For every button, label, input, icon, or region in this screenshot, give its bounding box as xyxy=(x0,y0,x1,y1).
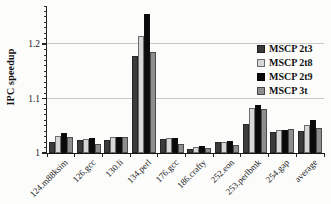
y-axis-minor-tick xyxy=(44,22,47,23)
legend-swatch xyxy=(257,59,265,67)
legend-swatch xyxy=(257,73,265,81)
y-axis-minor-tick xyxy=(44,104,47,105)
bar-average-mscp-3t xyxy=(316,128,322,153)
y-axis-minor-tick xyxy=(44,11,47,12)
y-tick-label: 1.2 xyxy=(22,39,40,49)
y-axis-minor-tick xyxy=(44,147,47,148)
y-axis-minor-tick xyxy=(44,82,47,83)
x-tick-label-130.li: 130.li xyxy=(104,158,125,179)
x-axis-tick xyxy=(213,153,214,157)
legend-item-mscp-3t: MSCP 3t xyxy=(257,85,313,96)
y-axis-minor-tick xyxy=(44,87,47,88)
y-axis-minor-tick xyxy=(44,16,47,17)
y-axis-minor-tick xyxy=(44,65,47,66)
bar-130.li-mscp-3t xyxy=(122,137,128,153)
legend-item-mscp-2t3: MSCP 2t3 xyxy=(257,43,313,54)
x-axis-tick xyxy=(296,153,297,157)
x-axis-tick xyxy=(268,153,269,157)
y-axis-minor-tick xyxy=(44,131,47,132)
y-axis-title: IPC speedup xyxy=(5,49,16,106)
bar-176.gcc-mscp-3t xyxy=(178,144,184,153)
x-axis-tick xyxy=(47,153,48,157)
x-tick-label-126.gcc: 126.gcc xyxy=(71,158,97,184)
legend-item-mscp-2t8: MSCP 2t8 xyxy=(257,57,313,68)
legend-item-mscp-2t9: MSCP 2t9 xyxy=(257,71,313,82)
bar-252.eon-mscp-3t xyxy=(233,145,239,153)
legend-label: MSCP 2t3 xyxy=(269,43,313,54)
bar-186.crafty-mscp-3t xyxy=(205,148,211,153)
y-axis-minor-tick xyxy=(44,114,47,115)
x-tick-label-average: average xyxy=(293,158,319,184)
y-axis-minor-tick xyxy=(44,6,47,7)
y-tick-label: 1 xyxy=(22,148,40,158)
y-axis-minor-tick xyxy=(44,136,47,137)
y-axis-minor-tick xyxy=(44,109,47,110)
legend-swatch xyxy=(257,87,265,95)
y-axis-major-tick xyxy=(42,43,47,44)
y-axis-minor-tick xyxy=(44,120,47,121)
legend-label: MSCP 2t8 xyxy=(269,57,313,68)
x-axis-tick xyxy=(240,153,241,157)
legend-label: MSCP 3t xyxy=(269,85,308,96)
x-tick-label-124.m88ksim: 124.m88ksim xyxy=(28,158,69,199)
y-axis-minor-tick xyxy=(44,93,47,94)
bar-124.m88ksim-mscp-3t xyxy=(67,137,73,153)
y-axis-minor-tick xyxy=(44,60,47,61)
x-tick-label-254.gap: 254.gap xyxy=(264,158,291,185)
x-axis-tick xyxy=(74,153,75,157)
legend-swatch xyxy=(257,45,265,53)
x-axis-tick xyxy=(324,153,325,157)
ipc-speedup-bar-chart: IPC speedup 11.11.2 124.m88ksim126.gcc13… xyxy=(0,0,331,204)
y-axis-minor-tick xyxy=(44,76,47,77)
y-axis-minor-tick xyxy=(44,71,47,72)
bar-126.gcc-mscp-3t xyxy=(95,144,101,153)
x-axis-tick xyxy=(157,153,158,157)
x-axis-tick xyxy=(102,153,103,157)
y-tick-label: 1.1 xyxy=(22,94,40,104)
y-axis-minor-tick xyxy=(44,33,47,34)
legend-label: MSCP 2t9 xyxy=(269,71,313,82)
bar-253.perlbmk-mscp-3t xyxy=(261,109,267,153)
x-tick-label-186.crafty: 186.crafty xyxy=(176,158,208,190)
y-axis-minor-tick xyxy=(44,55,47,56)
x-axis-tick xyxy=(130,153,131,157)
legend: MSCP 2t3MSCP 2t8MSCP 2t9MSCP 3t xyxy=(257,43,313,96)
y-axis-minor-tick xyxy=(44,27,47,28)
y-axis-minor-tick xyxy=(44,125,47,126)
y-axis-minor-tick xyxy=(44,38,47,39)
bar-254.gap-mscp-3t xyxy=(288,129,294,153)
y-axis-minor-tick xyxy=(44,142,47,143)
x-axis-tick xyxy=(185,153,186,157)
x-tick-label-134.perl: 134.perl xyxy=(125,158,152,185)
y-axis-minor-tick xyxy=(44,49,47,50)
bar-134.perl-mscp-3t xyxy=(150,52,156,153)
gridline xyxy=(47,98,324,99)
y-axis-major-tick xyxy=(42,98,47,99)
